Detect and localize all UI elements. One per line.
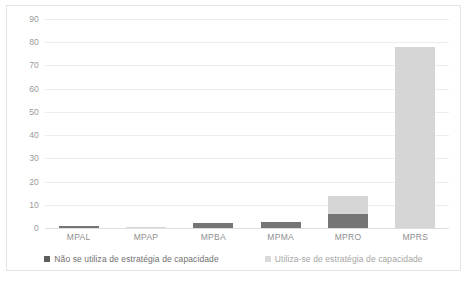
plot-area: 0102030405060708090 xyxy=(45,19,449,228)
y-axis-tick-label: 70 xyxy=(29,60,39,70)
x-axis-tick-labels: MPALMPAPMPBAMPMAMPROMPRS xyxy=(45,232,449,246)
y-axis-tick-label: 80 xyxy=(29,37,39,47)
bar-segment[interactable] xyxy=(59,226,99,228)
legend-item[interactable]: Utiliza-se de estratégia de capacidade xyxy=(265,254,423,264)
y-axis-tick-label: 20 xyxy=(29,177,39,187)
y-axis-tick-label: 40 xyxy=(29,130,39,140)
x-axis-tick-label: MPRS xyxy=(402,232,428,242)
gridline xyxy=(45,228,449,229)
y-axis-tick-label: 60 xyxy=(29,84,39,94)
y-axis-tick-label: 50 xyxy=(29,107,39,117)
bar-segment[interactable] xyxy=(126,227,166,228)
y-axis-tick-label: 10 xyxy=(29,200,39,210)
bar-group[interactable] xyxy=(328,196,368,228)
chart-frame: 0102030405060708090 MPALMPAPMPBAMPMAMPRO… xyxy=(6,5,461,271)
legend-item-label: Utiliza-se de estratégia de capacidade xyxy=(275,254,423,264)
y-axis-tick-label: 30 xyxy=(29,153,39,163)
x-axis-tick-label: MPMA xyxy=(267,232,294,242)
bar-segment[interactable] xyxy=(395,47,435,228)
bar-group[interactable] xyxy=(126,227,166,228)
bars-layer xyxy=(45,19,449,228)
x-axis-tick-label: MPAP xyxy=(134,232,159,242)
y-axis-tick-label: 0 xyxy=(34,223,39,233)
bar-segment[interactable] xyxy=(328,196,368,215)
x-axis-tick-label: MPAL xyxy=(67,232,91,242)
legend-swatch-icon xyxy=(44,256,50,262)
bar-group[interactable] xyxy=(395,47,435,228)
bar-group[interactable] xyxy=(261,222,301,228)
bar-segment[interactable] xyxy=(193,223,233,228)
legend-item[interactable]: Não se utiliza de estratégia de capacida… xyxy=(44,254,218,264)
x-axis-tick-label: MPBA xyxy=(201,232,226,242)
bar-group[interactable] xyxy=(59,226,99,228)
chart-legend: Não se utiliza de estratégia de capacida… xyxy=(7,254,460,264)
legend-item-label: Não se utiliza de estratégia de capacida… xyxy=(54,254,218,264)
y-axis-tick-label: 90 xyxy=(29,14,39,24)
bar-segment[interactable] xyxy=(328,214,368,228)
bar-segment[interactable] xyxy=(261,222,301,228)
x-axis-tick-label: MPRO xyxy=(335,232,362,242)
legend-swatch-icon xyxy=(265,256,271,262)
bar-group[interactable] xyxy=(193,223,233,228)
